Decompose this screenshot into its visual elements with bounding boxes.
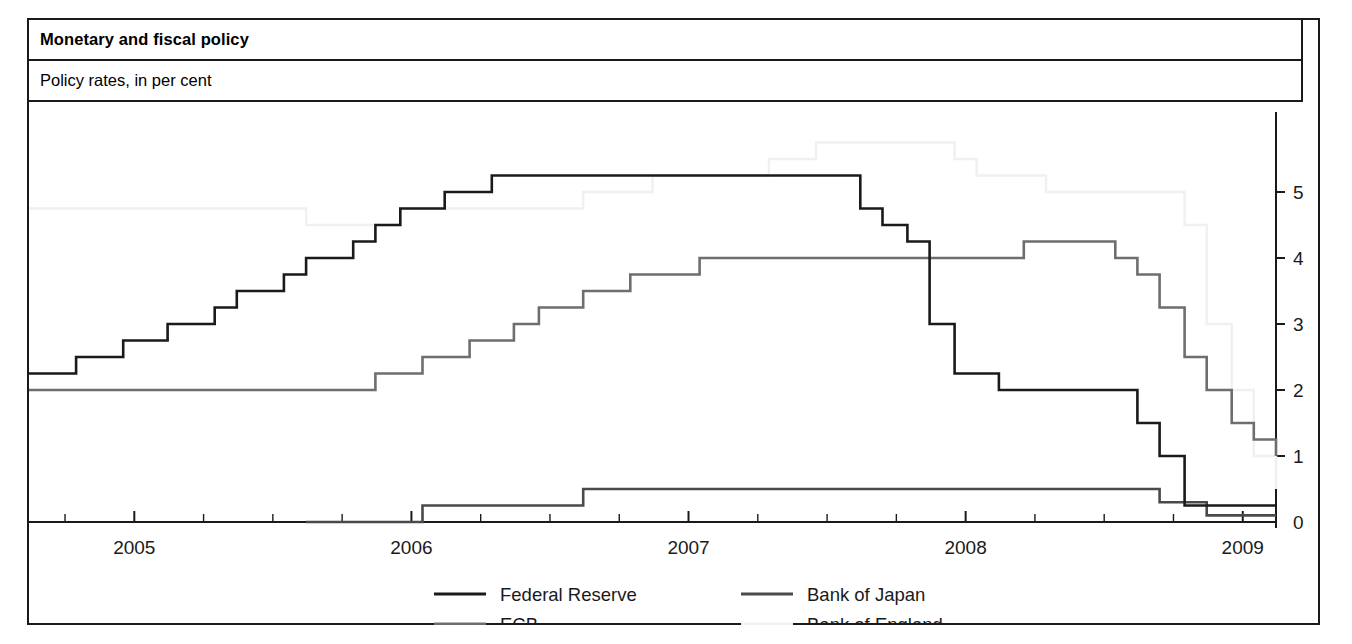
x-axis-tick-label: 2005	[113, 537, 155, 558]
chart-series-group	[29, 143, 1276, 523]
chart-title: Monetary and fiscal policy	[29, 30, 249, 49]
series-line-ecb	[29, 242, 1276, 457]
chart-subtitle-bar: Policy rates, in per cent	[29, 61, 1303, 102]
legend-label-bank-of-england: Bank of England	[807, 614, 943, 625]
y-axis-tick-label: 2	[1293, 380, 1304, 401]
x-axis-tick-label: 2006	[390, 537, 432, 558]
y-axis-tick-label: 3	[1293, 314, 1304, 335]
chart-panel: Monetary and fiscal policy Policy rates,…	[27, 18, 1320, 625]
x-axis-tick-label: 2007	[667, 537, 709, 558]
legend-label-federal-reserve: Federal Reserve	[500, 584, 637, 605]
policy-rates-line-chart: 20052006200720082009 012345 Federal Rese…	[29, 102, 1319, 625]
x-axis-tick-label: 2009	[1222, 537, 1264, 558]
y-axis-tick-label: 0	[1293, 512, 1304, 533]
y-axis-tick-label: 1	[1293, 446, 1304, 467]
series-line-bank-of-japan	[306, 489, 1276, 522]
chart-plot-region: 20052006200720082009 012345 Federal Rese…	[29, 102, 1318, 623]
x-axis-tick-labels: 20052006200720082009	[113, 537, 1264, 558]
chart-legend: Federal ReserveBank of JapanECBBank of E…	[434, 584, 943, 625]
series-line-federal-reserve	[29, 176, 1276, 506]
chart-title-bar: Monetary and fiscal policy	[29, 20, 1303, 61]
y-axis-tick-label: 4	[1293, 248, 1304, 269]
y-axis-tick-label: 5	[1293, 182, 1304, 203]
y-axis-tick-labels: 012345	[1293, 182, 1304, 533]
legend-label-bank-of-japan: Bank of Japan	[807, 584, 925, 605]
series-line-bank-of-england	[29, 143, 1276, 490]
x-axis-tick-label: 2008	[944, 537, 986, 558]
legend-label-ecb: ECB	[500, 614, 538, 625]
chart-subtitle: Policy rates, in per cent	[29, 71, 212, 90]
